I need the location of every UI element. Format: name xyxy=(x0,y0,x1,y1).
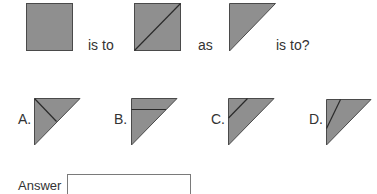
triangle-option-c-icon xyxy=(228,98,275,146)
option-c[interactable]: C. xyxy=(209,96,275,146)
as-text: as xyxy=(198,38,213,52)
answer-label: Answer xyxy=(18,179,61,192)
triangle-option-d-icon xyxy=(326,99,372,147)
option-c-label: C. xyxy=(211,112,225,126)
filled-square-icon xyxy=(26,3,73,51)
triangle-option-a-icon xyxy=(34,98,81,146)
option-a[interactable]: A. xyxy=(16,96,82,146)
option-b-label: B. xyxy=(114,112,127,126)
square-diagonal-icon xyxy=(134,3,181,51)
is-to-text: is to xyxy=(88,38,114,52)
answer-input[interactable] xyxy=(67,174,191,194)
right-triangle-icon xyxy=(229,3,277,52)
triangle-option-b-icon xyxy=(131,98,178,146)
is-to-question-text: is to? xyxy=(276,38,309,52)
option-d-label: D. xyxy=(309,112,323,126)
option-d[interactable]: D. xyxy=(307,96,373,146)
option-b[interactable]: B. xyxy=(112,96,178,146)
option-a-label: A. xyxy=(18,112,31,126)
